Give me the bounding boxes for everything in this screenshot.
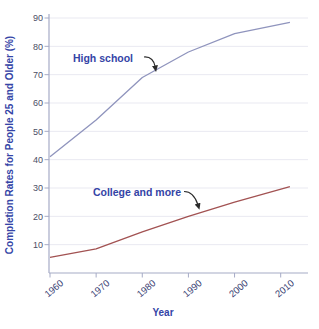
y-tick-label: 30 (33, 183, 43, 193)
y-tick-label: 50 (33, 127, 43, 137)
y-tick-label: 40 (33, 155, 43, 165)
x-axis-title: Year (152, 307, 173, 318)
y-tick-label: 60 (33, 98, 43, 108)
y-axis-ticks: 102030405060708090 (33, 13, 49, 250)
completion-rates-line-chart: 102030405060708090 196019701980199020002… (0, 0, 319, 329)
y-tick-label: 10 (33, 240, 43, 250)
chart-container: 102030405060708090 196019701980199020002… (0, 0, 319, 329)
y-tick-label: 90 (33, 13, 43, 23)
x-tick-label: 2010 (273, 277, 296, 299)
x-tick-label: 1960 (42, 277, 65, 299)
college-and-more-arrow (184, 192, 198, 206)
x-tick-label: 1980 (134, 277, 157, 299)
y-tick-label: 70 (33, 70, 43, 80)
y-axis-title: Completion Rates for People 25 and Older… (4, 36, 15, 254)
series-line-high-school (50, 22, 290, 157)
x-tick-label: 2000 (227, 277, 250, 299)
y-tick-label: 20 (33, 212, 43, 222)
high-school-arrow (144, 57, 155, 67)
x-tick-label: 1990 (181, 277, 204, 299)
annotation-high-school-label: High school (73, 52, 133, 64)
y-tick-label: 80 (33, 42, 43, 52)
x-tick-label: 1970 (88, 277, 111, 299)
x-axis-ticks: 196019701980199020002010 (42, 273, 296, 299)
annotation-college-label: College and more (93, 186, 181, 198)
